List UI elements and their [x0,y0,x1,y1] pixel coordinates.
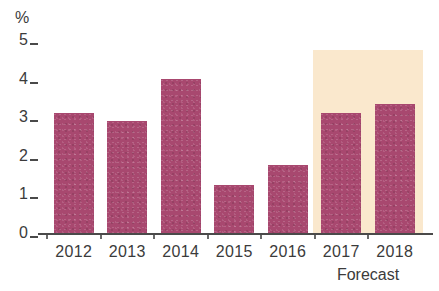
x-tick-mark-2015 [207,235,209,239]
bar-2014 [161,79,201,233]
forecast-caption: Forecast [318,266,418,284]
bar-2018 [375,104,415,233]
y-tick-label-2: 2 [12,148,28,164]
bar-2015 [214,185,254,233]
y-tick-label-1: 1 [12,186,28,202]
y-tick-mark-5 [30,43,38,45]
y-tick-label-0: 0 [12,225,28,241]
x-tick-label-2018: 2018 [367,243,423,261]
x-axis-line [38,233,433,235]
x-tick-mark-2018 [367,235,369,239]
x-tick-label-2017: 2017 [313,243,369,261]
x-tick-mark-2016 [260,235,262,239]
y-tick-mark-4 [30,82,38,84]
bar-chart: % 012345 2012201320142015201620172018 Fo… [0,0,439,291]
bar-2012 [54,113,94,233]
x-tick-label-2012: 2012 [46,243,102,261]
y-tick-mark-3 [30,120,38,122]
y-tick-label-5: 5 [12,32,28,48]
x-tick-label-2016: 2016 [260,243,316,261]
x-tick-mark-2014 [153,235,155,239]
y-tick-label-3: 3 [12,109,28,125]
bar-2016 [268,165,308,233]
plot-area [44,40,435,233]
x-tick-label-2014: 2014 [153,243,209,261]
x-tick-mark-2013 [100,235,102,239]
bar-2013 [107,121,147,233]
x-tick-mark-2017 [314,235,316,239]
x-tick-label-2015: 2015 [206,243,262,261]
y-tick-mark-0 [30,236,38,238]
y-tick-label-4: 4 [12,71,28,87]
x-tick-mark-2012 [46,235,48,239]
bar-2017 [321,113,361,233]
y-tick-mark-1 [30,197,38,199]
y-tick-mark-2 [30,159,38,161]
y-axis-unit-label: % [15,9,29,27]
x-tick-label-2013: 2013 [99,243,155,261]
